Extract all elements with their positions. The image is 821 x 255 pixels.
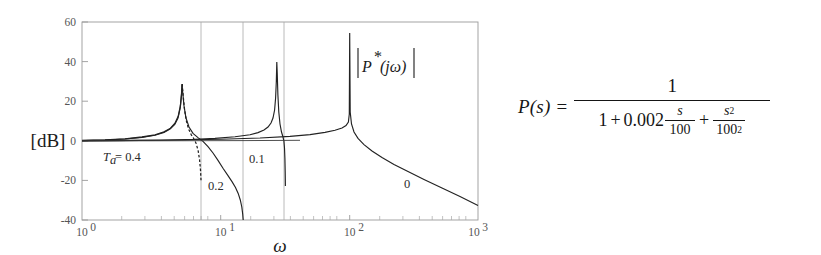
- x-tick-exponent: 0: [90, 221, 96, 233]
- annotation-p-symbol: P: [361, 58, 372, 75]
- equation-den-coefficient: 0.002: [624, 110, 665, 131]
- figure-root: 60 40 20 0 -20 -40 10 0 10 1 10 2: [0, 0, 821, 255]
- x-axis-label: ω: [273, 235, 286, 255]
- curve-label-ta-value: = 0.4: [115, 150, 142, 164]
- equation-den-plus-2: +: [699, 110, 709, 131]
- equation-den-plus-1: +: [610, 110, 620, 131]
- curve-label-01: 0.1: [249, 152, 265, 166]
- equation-equals-sign: =: [556, 96, 567, 118]
- curve-label-0: 0: [404, 177, 410, 191]
- equation-s2-numerator: s2: [721, 103, 737, 120]
- equation-numerator: 1: [663, 74, 681, 100]
- equation-expression: P(s) = 1 1 + 0.002 s 100 + s2: [518, 74, 770, 139]
- x-tick-exponent: 3: [482, 221, 488, 233]
- equation-s-over-100-denominator: 100: [667, 121, 694, 138]
- x-tick-label-group: 10 2: [344, 221, 364, 238]
- y-tick-labels: 60 40 20 0 -20 -40: [61, 16, 77, 226]
- y-tick-label: -20: [61, 174, 77, 186]
- x-tick-label-group: 10 1: [215, 221, 235, 238]
- x-tick-exponent: 2: [358, 221, 364, 233]
- x-tick-base: 10: [215, 226, 227, 238]
- plot-svg: 60 40 20 0 -20 -40 10 0 10 1 10 2: [0, 0, 500, 255]
- y-tick-label: 60: [65, 16, 77, 28]
- y-tick-label: 0: [70, 135, 76, 147]
- bode-magnitude-plot-panel: 60 40 20 0 -20 -40 10 0 10 1 10 2: [0, 0, 500, 255]
- x-tick-label-group: 10 3: [468, 221, 488, 238]
- equation-main-fraction: 1 1 + 0.002 s 100 + s2 1002: [574, 74, 770, 139]
- curve-label-02: 0.2: [208, 179, 224, 193]
- y-tick-label: 20: [65, 95, 77, 107]
- x-tick-exponent: 1: [229, 221, 235, 233]
- annotation-jomega-arg: (jω): [380, 58, 406, 76]
- x-tick-base: 10: [76, 226, 88, 238]
- equation-lhs: P(s): [518, 96, 550, 118]
- y-tick-label: -40: [61, 214, 77, 226]
- y-tick-label: 40: [65, 56, 77, 68]
- equation-den-one: 1: [598, 110, 607, 131]
- equation-s-over-100-fraction: s 100: [665, 103, 695, 138]
- x-tick-base: 10: [468, 226, 480, 238]
- transfer-function-equation-panel: P(s) = 1 1 + 0.002 s 100 + s2: [500, 0, 821, 255]
- equation-s-over-100-numerator: s: [674, 103, 685, 120]
- equation-denominator: 1 + 0.002 s 100 + s2 1002: [594, 101, 750, 139]
- equation-1002-denominator: 1002: [713, 121, 745, 138]
- x-tick-label-group: 10 0: [76, 221, 96, 238]
- equation-s2-over-1002-fraction: s2 1002: [713, 103, 745, 138]
- equation-100-base: 100: [716, 122, 737, 138]
- x-tick-base: 10: [344, 226, 356, 238]
- y-axis-label: [dB]: [31, 130, 66, 151]
